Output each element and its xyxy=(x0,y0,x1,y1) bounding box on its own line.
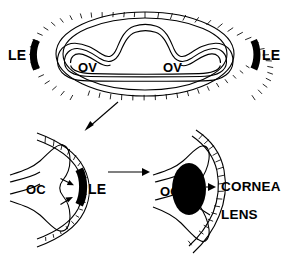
label-ov-left: OV xyxy=(78,60,97,75)
horizontal-transition-arrow xyxy=(108,168,150,176)
horizontal-arrow-head xyxy=(142,168,150,176)
diagonal-transition-arrow xyxy=(85,102,119,131)
eye-development-diagram: LE LE OV OV xyxy=(0,0,291,268)
lens-placode-indicator-arrows xyxy=(61,179,75,205)
diagram-canvas: LE LE OV OV xyxy=(0,0,291,268)
top-panel-group: LE LE OV OV xyxy=(8,12,280,100)
label-le-right: LE xyxy=(262,47,280,63)
diagonal-arrow-head xyxy=(85,121,94,131)
lens-ectoderm-right-thickening xyxy=(251,39,261,70)
cornea-arrow-head xyxy=(208,183,216,191)
label-le-middle: LE xyxy=(88,181,106,197)
lens-ectoderm-placode-thickening xyxy=(76,168,88,207)
middle-left-panel-group: OC LE xyxy=(10,133,106,247)
label-le-left: LE xyxy=(8,47,26,63)
label-ov-right: OV xyxy=(163,60,182,75)
label-oc-middle: OC xyxy=(26,182,46,197)
label-lens: LENS xyxy=(221,207,258,222)
label-oc-right: OC xyxy=(160,184,180,199)
label-cornea: CORNEA xyxy=(221,179,281,194)
surface-ectoderm-inner-outline xyxy=(63,18,227,90)
cornea-indicator-arrow xyxy=(206,183,216,191)
right-panel-group: OC CORNEA LENS xyxy=(153,130,281,253)
lens-ectoderm-left-thickening xyxy=(30,39,40,70)
